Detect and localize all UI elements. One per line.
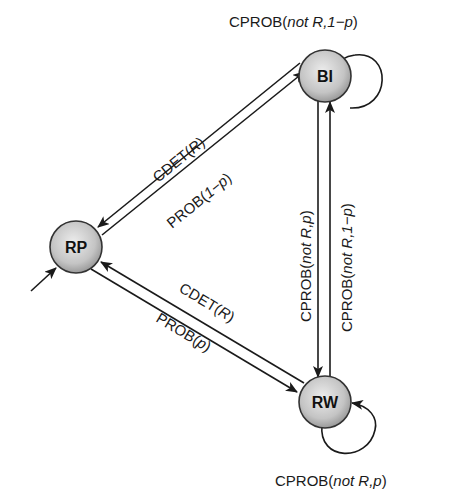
label-rp-to-rw: PROB(p) [153, 309, 214, 355]
state-node-rp: RP [50, 221, 102, 273]
label-bi-self-loop: CPROB(not R,1−p) [229, 13, 358, 30]
label-rw-to-bi: CPROB(not R,1−p) [338, 203, 355, 332]
label-rw-to-rp: CDET(R) [176, 279, 238, 325]
node-label-rp: RP [65, 239, 88, 256]
label-bi-to-rw: CPROB(not R,p) [297, 210, 314, 322]
state-node-bi: BI [299, 50, 351, 102]
node-label-bi: BI [317, 68, 333, 85]
node-label-rw: RW [312, 394, 339, 411]
initial-state-arrow [31, 268, 56, 291]
state-diagram: BI RP RW CPROB(not R,1−p) CDET(R) PROB(1… [0, 0, 457, 504]
label-rw-self-loop: CPROB(not R,p) [275, 472, 387, 489]
edge-rw-to-rp [101, 262, 304, 383]
edge-rp-to-bi [102, 72, 304, 235]
label-bi-to-rp: CDET(R) [149, 133, 208, 185]
label-rp-to-bi: PROB(1−p) [163, 169, 234, 231]
state-node-rw: RW [299, 376, 351, 428]
